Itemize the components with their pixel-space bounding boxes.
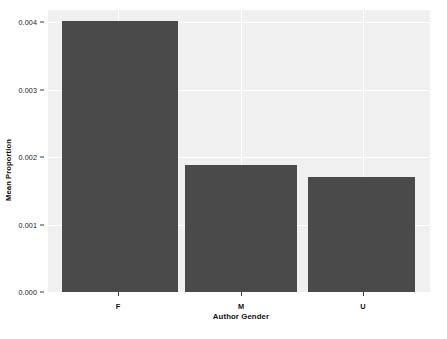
y-tick-mark	[40, 89, 44, 90]
bar-chart-figure: Mean Proportion 0.000 0.001 0.002 0.003 …	[0, 0, 447, 339]
x-tick-label-U: U	[360, 302, 365, 311]
y-tick-mark	[40, 22, 44, 23]
y-axis: Mean Proportion 0.000 0.001 0.002 0.003 …	[0, 0, 48, 339]
y-tick-label-1: 0.001	[19, 220, 38, 229]
y-tick-mark	[40, 224, 44, 225]
bar-U	[308, 177, 415, 292]
x-axis-title: Author Gender	[213, 312, 269, 321]
y-tick-label-2: 0.002	[19, 153, 38, 162]
bar-M	[185, 165, 297, 292]
y-tick-label-3: 0.003	[19, 85, 38, 94]
y-axis-title: Mean Proportion	[4, 139, 13, 201]
x-tick-label-F: F	[116, 302, 121, 311]
x-tick-mark	[363, 292, 364, 296]
y-tick-mark	[40, 157, 44, 158]
x-tick-label-M: M	[238, 302, 244, 311]
x-tick-mark	[118, 292, 119, 296]
bar-F	[62, 21, 178, 292]
x-tick-mark	[241, 292, 242, 296]
plot-area	[48, 10, 430, 292]
x-axis: F M U Author Gender	[0, 292, 447, 339]
y-tick-label-4: 0.004	[19, 18, 38, 27]
